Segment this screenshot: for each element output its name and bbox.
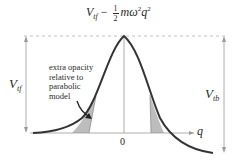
right-shaded-region bbox=[150, 95, 164, 133]
origin-label: 0 bbox=[120, 136, 125, 147]
annotation-text: extra opacity relative to parabolic mode… bbox=[49, 63, 93, 101]
q-axis-label: q bbox=[197, 124, 203, 139]
q-axis-arrowhead bbox=[189, 131, 194, 135]
one-half-fraction: 12 bbox=[113, 4, 119, 23]
right-height-label: Vtb bbox=[205, 86, 219, 103]
barrier-formula: Vtf − 12mω2q2 bbox=[86, 4, 151, 23]
left-height-label: Vtf bbox=[9, 76, 21, 93]
